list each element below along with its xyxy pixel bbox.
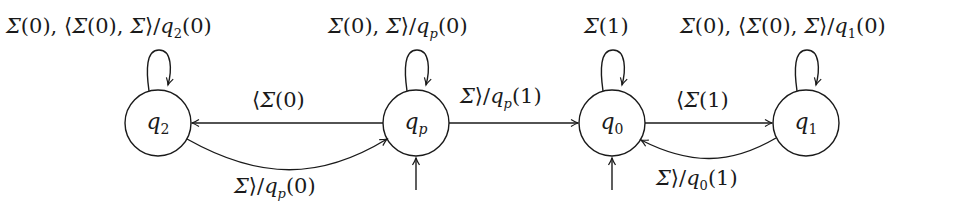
edge-q1-q0: [641, 138, 776, 159]
edge-q2-qp: [187, 139, 387, 170]
label-loop-q1: Σ(0), ⟨Σ(0), Σ⟩/q1(0): [680, 16, 886, 40]
label-loop-q0: Σ(1): [584, 16, 629, 37]
label-qp-to-q2: ⟨Σ(0): [252, 90, 305, 111]
label-qp-to-q0: Σ⟩/qp(1): [460, 86, 542, 110]
label-q0-to-q1: ⟨Σ(1): [676, 90, 729, 111]
label-loop-qp: Σ(0), Σ⟩/qp(0): [328, 16, 468, 40]
loop-q1-arrow: [795, 50, 818, 91]
loop-qp-arrow: [405, 50, 428, 91]
state-label-q1: q1: [794, 109, 817, 137]
label-loop-q2: Σ(0), ⟨Σ(0), Σ⟩/q2(0): [6, 16, 212, 40]
state-label-q0: q0: [600, 109, 623, 137]
state-label-qp: qp: [404, 109, 427, 137]
loop-q2-arrow: [147, 50, 170, 91]
label-q2-to-qp: Σ⟩/qp(0): [234, 176, 316, 200]
label-q1-to-q0: Σ⟩/q0(1): [656, 168, 738, 192]
state-label-q2: q2: [146, 109, 169, 137]
loop-q0-arrow: [601, 50, 624, 91]
